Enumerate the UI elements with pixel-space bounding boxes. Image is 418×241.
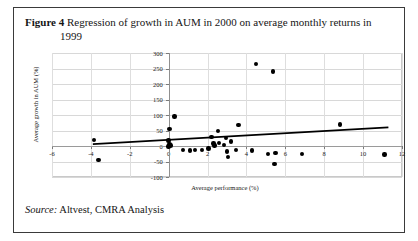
- scatter-point: [272, 162, 276, 166]
- scatter-point: [167, 127, 171, 131]
- plot-area: -100-50050100150200250300-6-4-2024681012: [52, 53, 402, 177]
- figure-caption-text: Regression of growth in AUM in 2000 on a…: [67, 16, 372, 28]
- gridline-horizontal: [52, 177, 402, 178]
- scatter-point: [212, 143, 216, 147]
- figure-label: Figure 4: [25, 16, 64, 28]
- source-text: Altvest, CMRA Analysis: [59, 204, 164, 215]
- scatter-point: [172, 114, 176, 118]
- scatter-point: [250, 148, 254, 152]
- scatter-point: [188, 148, 192, 152]
- scatter-point: [273, 151, 277, 155]
- figure-container: Figure 4 Regression of growth in AUM in …: [13, 7, 405, 233]
- scatter-point: [271, 69, 275, 73]
- scatter-point: [92, 138, 96, 142]
- scatter-point: [234, 148, 238, 152]
- source-label: Source:: [25, 204, 57, 215]
- scatter-point: [206, 146, 210, 150]
- scatter-point: [225, 149, 229, 153]
- x-axis-tick-mark: [402, 146, 403, 149]
- x-axis-title: Average performance (%): [145, 184, 305, 191]
- scatter-point: [166, 144, 170, 148]
- scatter-point: [338, 122, 342, 126]
- scatter-point: [229, 139, 233, 143]
- y-axis-title: Average growth in AUM (%): [32, 57, 39, 153]
- source-note: Source: Altvest, CMRA Analysis: [25, 204, 164, 215]
- scatter-point: [382, 152, 386, 156]
- gridline-vertical: [402, 53, 403, 177]
- scatter-point: [209, 135, 213, 139]
- scatter-point: [236, 123, 240, 127]
- figure-caption-continuation: 1999: [60, 29, 82, 43]
- y-axis-title-wrapper: Average growth in AUM (%): [29, 57, 41, 169]
- figure-caption: Figure 4 Regression of growth in AUM in …: [25, 15, 397, 29]
- scatter-point: [96, 158, 100, 162]
- scatter-point: [200, 148, 204, 152]
- y-axis-tick-mark: [166, 177, 169, 178]
- scatter-chart: Average growth in AUM (%) -100-500501001…: [25, 47, 393, 195]
